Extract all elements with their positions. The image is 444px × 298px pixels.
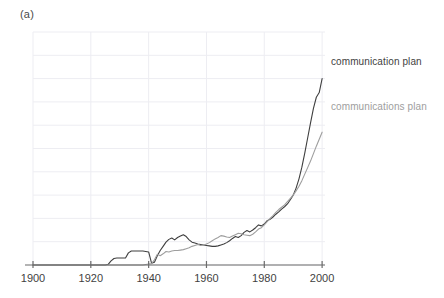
series-label-communications-plan: communications plan (331, 101, 427, 112)
gridlines (33, 32, 325, 265)
panel-label: (a) (20, 8, 34, 20)
x-tick-label: 1960 (194, 272, 218, 284)
x-tick-label: 1920 (79, 272, 103, 284)
x-axis (25, 261, 325, 268)
series-line-1 (33, 132, 322, 265)
ngram-chart-figure: (a) communication plan communications pl… (0, 0, 444, 298)
x-tick-label: 1980 (252, 272, 276, 284)
chart-plot-area (0, 0, 444, 298)
x-tick-label: 1940 (136, 272, 160, 284)
x-tick-label: 2000 (310, 272, 334, 284)
x-tick-label: 1900 (21, 272, 45, 284)
series-label-communication-plan: communication plan (331, 56, 422, 67)
